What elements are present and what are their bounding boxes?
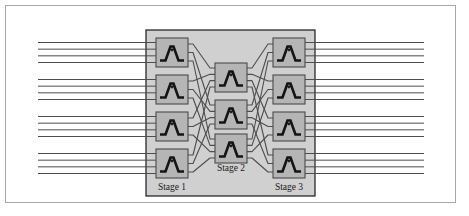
- switch-box: [156, 38, 188, 67]
- switch-box: [273, 149, 305, 178]
- switch-stage-3-1: [273, 75, 305, 104]
- switch-box: [273, 112, 305, 141]
- switch-box: [156, 112, 188, 141]
- switch-stage-3-2: [273, 112, 305, 141]
- switch-box: [156, 149, 188, 178]
- stage-label-3: Stage 3: [275, 182, 303, 192]
- switch-stage-2-2: [215, 134, 247, 163]
- switch-stage-3-3: [273, 149, 305, 178]
- switch-stage-2-0: [215, 63, 247, 92]
- switch-box: [273, 38, 305, 67]
- switch-stage-1-1: [156, 75, 188, 104]
- output-lines-group: [305, 43, 424, 174]
- switch-box: [273, 75, 305, 104]
- switch-box: [215, 100, 247, 129]
- switch-box: [215, 134, 247, 163]
- switch-stage-1-0: [156, 38, 188, 67]
- figure-root: Stage 1Stage 2Stage 3: [0, 0, 469, 216]
- switch-box: [156, 75, 188, 104]
- stage-label-1: Stage 1: [158, 182, 186, 192]
- switch-stage-1-3: [156, 149, 188, 178]
- switch-box: [215, 63, 247, 92]
- input-lines-group: [38, 43, 156, 174]
- switch-stage-1-2: [156, 112, 188, 141]
- switch-stage-2-1: [215, 100, 247, 129]
- clos-network-diagram: Stage 1Stage 2Stage 3: [0, 0, 469, 216]
- stage-label-2: Stage 2: [217, 163, 245, 173]
- switch-stage-3-0: [273, 38, 305, 67]
